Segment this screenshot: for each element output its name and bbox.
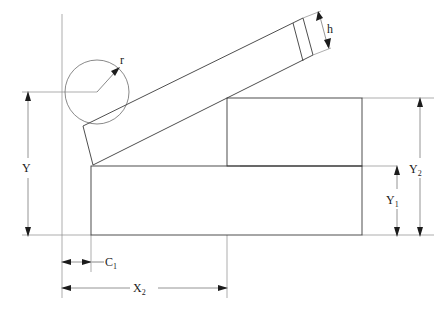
- y2-dimension-group: Y2: [408, 97, 434, 237]
- h-lower-extension: [313, 48, 331, 55]
- y1-arrowhead-bottom-icon: [394, 227, 400, 237]
- h-label: h: [327, 22, 333, 36]
- radius-label: r: [120, 53, 124, 67]
- upper-rectangle: [227, 98, 362, 166]
- y-label: Y: [22, 161, 31, 175]
- upper-block-group: [227, 98, 362, 166]
- y2-arrowhead-top-icon: [417, 97, 423, 107]
- y-arrowhead-top-icon: [25, 91, 31, 101]
- lower-block-group: [91, 166, 362, 235]
- y-dimension-group: Y: [18, 91, 38, 237]
- y1-dimension-group: Y1: [385, 165, 411, 237]
- inclined-bar-body: [83, 18, 313, 165]
- y1-arrowhead-top-icon: [394, 165, 400, 175]
- y-arrowhead-bottom-icon: [25, 227, 31, 237]
- bar-end-divider-line: [293, 23, 303, 61]
- c1-dimension-group: C1: [61, 255, 117, 271]
- lower-rectangle: [91, 166, 362, 235]
- inclined-bar-group: [83, 18, 313, 165]
- c1-arrowhead-right-icon: [82, 259, 92, 265]
- extension-lines: [22, 14, 434, 298]
- pivot-circle-group: r: [65, 53, 129, 124]
- engineering-diagram: r h: [0, 0, 445, 309]
- radius-leader-line: [97, 71, 116, 92]
- x2-dimension-group: X2: [61, 279, 228, 297]
- x2-arrowhead-right-icon: [218, 285, 228, 291]
- c1-label: C1: [105, 255, 117, 271]
- h-arrowhead-bottom-icon: [324, 38, 331, 49]
- x2-arrowhead-left-icon: [61, 285, 71, 291]
- y2-arrowhead-bottom-icon: [417, 227, 423, 237]
- c1-arrowhead-left-icon: [61, 259, 71, 265]
- technical-drawing-canvas: r h: [0, 0, 445, 309]
